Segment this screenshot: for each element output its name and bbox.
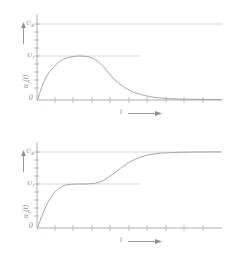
level-label-ub-top: UB [26, 20, 34, 28]
x-axis-label-bottom: t [120, 236, 122, 244]
y-axis-label-top: u1(t) [22, 75, 32, 88]
figure-container: u1(t) UB U1 0 t [0, 0, 234, 255]
level-label-u1-top: U1 [27, 52, 35, 60]
x-axis-label-top: t [120, 108, 122, 116]
x-axis-arrow-bottom [128, 238, 162, 245]
level-label-u1-bottom: U1 [27, 180, 35, 188]
origin-label-bottom: 0 [29, 222, 33, 230]
x-axis-arrow-top [128, 110, 162, 117]
plot-area-top [0, 0, 234, 127]
curve-u2 [38, 152, 222, 228]
level-label-ub-bottom: UB [26, 148, 34, 156]
chart-panel-top: u1(t) UB U1 0 t [0, 0, 234, 127]
y-axis-label-bottom: u2(t) [22, 205, 32, 218]
chart-panel-bottom: u2(t) UB U1 0 t [0, 128, 234, 255]
plot-area-bottom [0, 128, 234, 255]
curve-u1 [38, 56, 222, 100]
origin-label-top: 0 [29, 94, 33, 102]
